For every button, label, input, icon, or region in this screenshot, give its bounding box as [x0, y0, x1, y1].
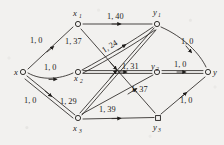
node-label-y: y [212, 67, 217, 77]
node-label-y1-sub: 1 [158, 12, 161, 18]
node-label-y2: y [150, 61, 155, 71]
node-x[interactable] [20, 69, 25, 74]
node-label-x3: x [72, 123, 77, 133]
edge-label-x-x3: 1, 0 [24, 96, 36, 105]
node-x3[interactable] [75, 115, 80, 120]
edge-label-y1-y: 1, 0 [181, 37, 193, 46]
node-label-x2-sub: 2 [80, 78, 83, 84]
node-label-x2: x [73, 73, 78, 83]
node-label-x1: x [72, 8, 77, 18]
node-label-x1-sub: 1 [79, 13, 82, 19]
node-label-y3: y [152, 122, 157, 132]
edge-label-x-x1: 1, 0 [30, 36, 42, 45]
edge-label-x2-y1: 1, 24 [100, 38, 120, 55]
edge-x2-y1 [82, 27, 155, 73]
node-y1[interactable] [154, 21, 159, 26]
edge-x3-y3 [83, 118, 154, 120]
node-y[interactable] [205, 69, 210, 74]
edge-label-x3-y1: 1, 29 [60, 97, 77, 106]
edge-label-x3-y2: 1, 37 [131, 85, 148, 94]
node-label-y1: y [152, 7, 157, 17]
edge-x-x2 [28, 73, 73, 80]
edge-label-x2-y2: 1, 31 [122, 62, 139, 71]
edge-x2-y2 [83, 71, 152, 74]
node-y3[interactable] [156, 116, 161, 121]
edge-x3-y2 [82, 75, 153, 114]
edge-label-y3-y: 1, 0 [180, 96, 192, 105]
node-label-x3-sub: 3 [78, 128, 82, 134]
edge-y2-y [162, 71, 203, 74]
edge-label-x1-y1: 1, 40 [107, 12, 124, 21]
node-label-y2-sub: 2 [156, 66, 159, 72]
network-flow-figure: x x 1 x 2 x 3 y 1 y 2 y 3 y 1, 0 1, 0 1,… [0, 0, 224, 145]
edge-label-x1-y3: 1, 37 [65, 37, 82, 46]
edge-label-y2-y: 1, 0 [174, 60, 186, 69]
edge-label-x3-y3: 1, 39 [99, 105, 116, 114]
edge-label-x-x2: 1, 0 [44, 63, 56, 72]
graph-canvas: x x 1 x 2 x 3 y 1 y 2 y 3 y 1, 0 1, 0 1,… [0, 0, 224, 145]
node-x1[interactable] [75, 21, 80, 26]
node-label-y3-sub: 3 [157, 127, 161, 133]
node-label-x: x [13, 67, 18, 77]
